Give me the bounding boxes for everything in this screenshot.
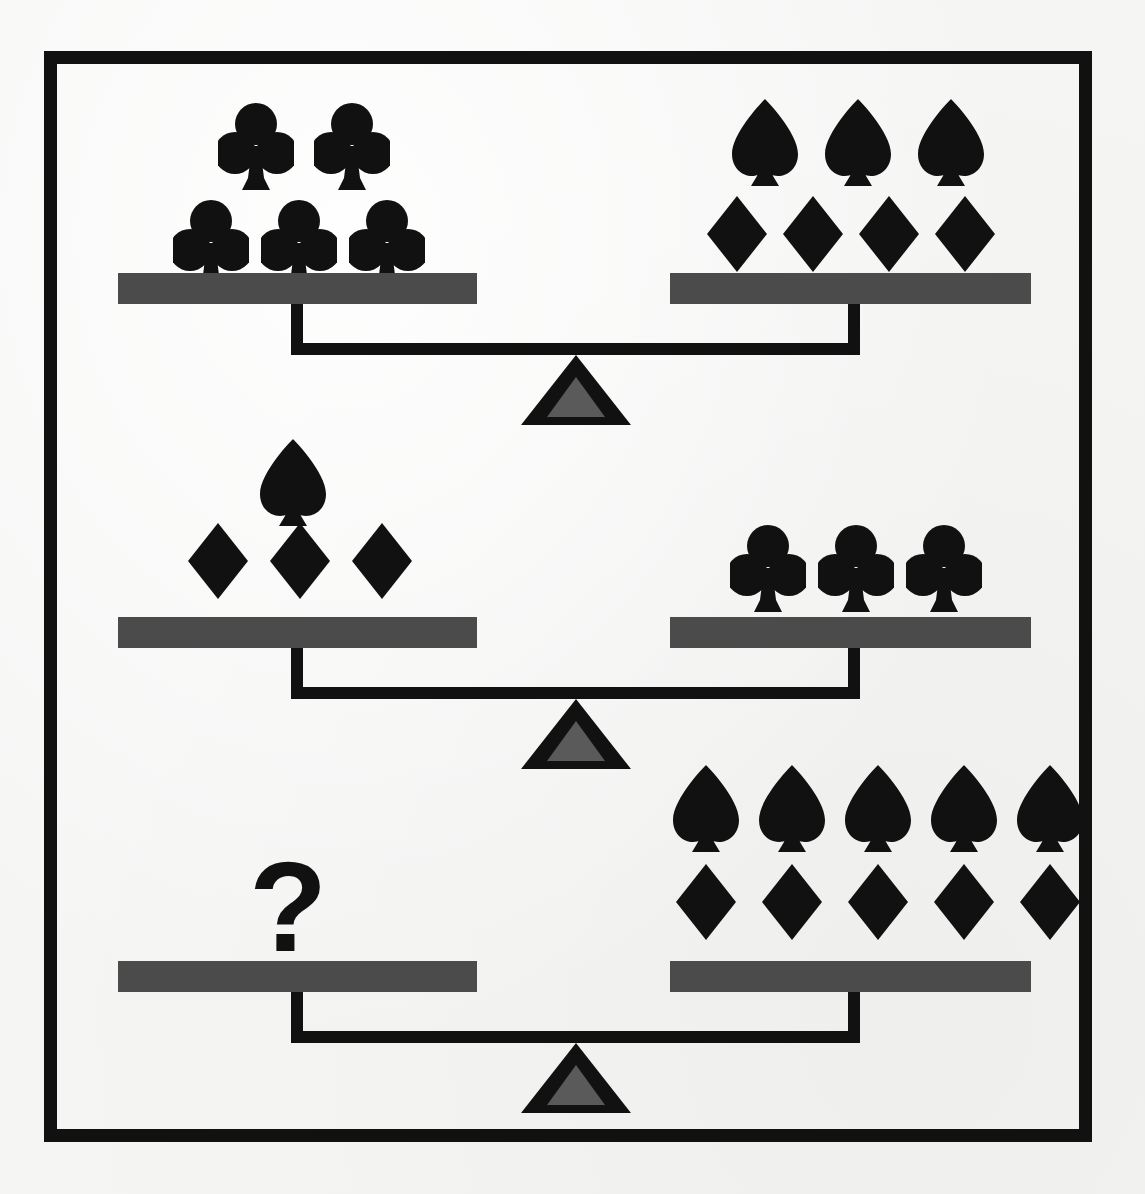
diamond-icon: [932, 862, 996, 942]
club-icon: [906, 522, 982, 615]
balance-1-right-pan: [670, 273, 1031, 304]
fulcrum-triangle-inner: [547, 377, 605, 417]
balance-3-left-pan: [118, 961, 477, 992]
club-icon: [730, 522, 806, 615]
spade-icon: [926, 762, 1002, 855]
fulcrum-triangle-inner: [547, 721, 605, 761]
balance-3-fulcrum: [521, 1043, 631, 1113]
balance-1-beam: [291, 343, 860, 355]
balance-2-right-row-1: [730, 522, 982, 615]
balance-1-right-row-2: [705, 194, 997, 274]
balance-1-fulcrum: [521, 355, 631, 425]
diamond-icon: [781, 194, 845, 274]
balance-3-beam: [291, 1031, 860, 1043]
diamond-icon: [1018, 862, 1082, 942]
unknown-question-mark: ?: [249, 843, 325, 971]
spade-icon: [820, 96, 896, 189]
balance-2-beam: [291, 687, 860, 699]
diamond-icon: [705, 194, 769, 274]
club-icon: [818, 522, 894, 615]
diamond-icon: [674, 862, 738, 942]
balance-3-right-right-row-2: [674, 862, 1082, 942]
balance-2-fulcrum: [521, 699, 631, 769]
balance-2-left-row-1: [255, 436, 331, 529]
balance-3-left-stem: [291, 992, 303, 1031]
spade-icon: [255, 436, 331, 529]
balance-3-right-row-1: [668, 762, 1088, 855]
spade-icon: [913, 96, 989, 189]
spade-icon: [754, 762, 830, 855]
balance-1-right-stem: [848, 304, 860, 343]
balance-3-right-stem: [848, 992, 860, 1031]
diamond-icon: [350, 521, 414, 601]
diamond-icon: [186, 521, 250, 601]
balance-1-left-stem: [291, 304, 303, 343]
club-icon: [314, 100, 390, 193]
balance-3-right-pan: [670, 961, 1031, 992]
diamond-icon: [857, 194, 921, 274]
club-icon: [218, 100, 294, 193]
diamond-icon: [760, 862, 824, 942]
spade-icon: [668, 762, 744, 855]
spade-icon: [1012, 762, 1088, 855]
balance-2-right-pan: [670, 617, 1031, 648]
fulcrum-triangle-inner: [547, 1065, 605, 1105]
balance-2-left-stem: [291, 648, 303, 687]
balance-1-left-pan: [118, 273, 477, 304]
balance-1-right-row-1: [727, 96, 989, 189]
balance-2-right-stem: [848, 648, 860, 687]
spade-icon: [727, 96, 803, 189]
balance-1-left-row-1: [218, 100, 390, 193]
balance-2-left-row-2: [186, 521, 414, 601]
diamond-icon: [846, 862, 910, 942]
puzzle-page: ?: [0, 0, 1145, 1194]
balance-2-left-pan: [118, 617, 477, 648]
diamond-icon: [933, 194, 997, 274]
spade-icon: [840, 762, 916, 855]
diamond-icon: [268, 521, 332, 601]
